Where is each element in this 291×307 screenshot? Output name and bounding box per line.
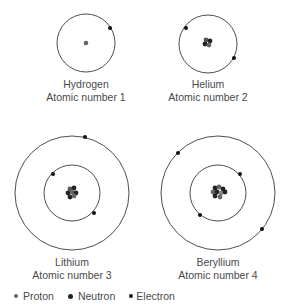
- neutron-icon: [68, 294, 73, 299]
- electron: [83, 135, 87, 139]
- nucleus: [66, 186, 79, 200]
- lithium-atom: [15, 135, 129, 250]
- legend-neutron-label: Neutron: [78, 290, 115, 302]
- hydrogen-atom: [57, 14, 115, 72]
- lithium-label: Lithium Atomic number 3: [12, 256, 132, 282]
- legend-neutron: Neutron: [68, 290, 115, 302]
- legend-electron: Electron: [129, 290, 175, 302]
- helium-label: Helium Atomic number 2: [148, 78, 268, 104]
- atomic-number-caption: Atomic number 1: [26, 91, 146, 104]
- electron: [184, 26, 188, 30]
- legend-electron-label: Electron: [136, 290, 175, 302]
- beryllium-atom: [161, 136, 275, 250]
- atomic-number-caption: Atomic number 2: [148, 91, 268, 104]
- element-name: Beryllium: [158, 256, 278, 269]
- element-name: Helium: [148, 78, 268, 91]
- nucleus: [203, 38, 213, 48]
- legend-proton-label: Proton: [23, 290, 54, 302]
- element-name: Lithium: [12, 256, 132, 269]
- electron: [176, 151, 180, 155]
- legend-proton: Proton: [14, 290, 54, 302]
- atomic-number-caption: Atomic number 4: [158, 269, 278, 282]
- nucleus: [211, 185, 228, 200]
- legend: Proton Neutron Electron: [14, 290, 189, 302]
- proton-icon: [14, 294, 18, 298]
- electron-icon: [129, 294, 133, 298]
- helium-atom: [179, 15, 237, 73]
- atomic-number-caption: Atomic number 3: [12, 269, 132, 282]
- hydrogen-label: Hydrogen Atomic number 1: [26, 78, 146, 104]
- electron: [238, 172, 242, 176]
- electron: [198, 213, 202, 217]
- electron: [108, 26, 112, 30]
- electron: [51, 172, 55, 176]
- electron: [232, 56, 236, 60]
- beryllium-label: Beryllium Atomic number 4: [158, 256, 278, 282]
- electron: [92, 211, 96, 215]
- element-name: Hydrogen: [26, 78, 146, 91]
- electron: [260, 227, 264, 231]
- proton: [84, 41, 89, 46]
